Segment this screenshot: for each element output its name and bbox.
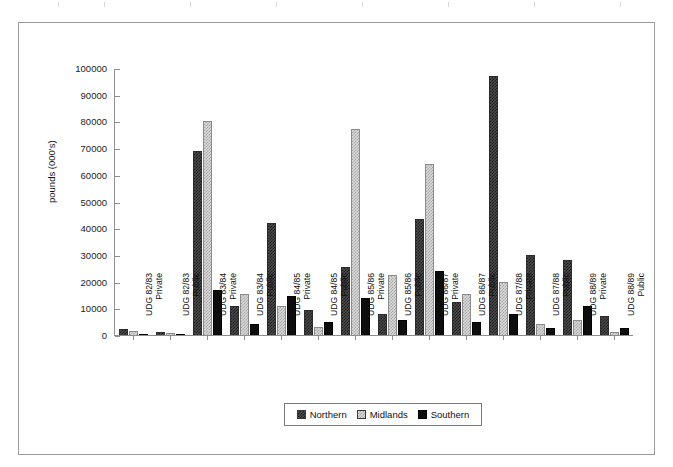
x-axis-label-cell: UDG 88/89Private xyxy=(559,343,596,415)
x-axis-tick xyxy=(207,335,208,340)
legend-swatch-icon xyxy=(357,410,366,419)
x-axis-tick xyxy=(281,335,282,340)
legend-item-southern[interactable]: Southern xyxy=(418,409,470,420)
x-axis-tick-label: UDG 88/89Private xyxy=(588,273,608,343)
x-axis-label-line2: Public xyxy=(191,273,201,343)
x-axis-label-line1: UDG 88/89 xyxy=(588,273,598,343)
x-axis-tick-label: UDG 85/86Public xyxy=(403,273,423,343)
bar-midlands xyxy=(388,275,397,335)
y-axis-tick-label: 70000 xyxy=(81,144,107,154)
x-axis-tick-label: UDG 82/83Public xyxy=(181,273,201,343)
x-axis-tick-label: UDG 84/85Private xyxy=(292,273,312,343)
x-axis-label-cell: UDG 87/88Private xyxy=(485,343,522,415)
x-axis-label-line1: UDG 83/84 xyxy=(255,273,265,343)
x-axis-label-line2: Public xyxy=(636,273,646,343)
x-axis-label-line2: Private xyxy=(450,273,460,343)
y-axis-tick xyxy=(115,336,120,337)
legend-swatch-icon xyxy=(297,410,306,419)
y-axis-tick-label: 80000 xyxy=(81,118,107,128)
x-axis-tick xyxy=(429,335,430,340)
legend-label: Midlands xyxy=(370,409,408,420)
x-axis-tick-label: UDG 84/85Public xyxy=(329,273,349,343)
x-axis-tick-label: UDG 88/89Public xyxy=(626,273,646,343)
bar-midlands xyxy=(425,164,434,335)
y-axis-tick-label: 30000 xyxy=(81,251,107,261)
x-axis-label-line2: Private xyxy=(154,273,164,343)
y-axis-tick-label: 90000 xyxy=(81,91,107,101)
x-axis-label-line1: UDG 84/85 xyxy=(329,273,339,343)
x-axis-label-line1: UDG 82/83 xyxy=(144,273,154,343)
x-axis-label-cell: UDG 82/83Private xyxy=(114,343,151,415)
x-axis-tick xyxy=(133,335,134,340)
x-axis-label-line2: Private xyxy=(598,273,608,343)
legend-label: Northern xyxy=(310,409,347,420)
y-axis-tick-label: 100000 xyxy=(75,64,107,74)
x-axis-label-line1: UDG 87/88 xyxy=(551,273,561,343)
y-axis-tick-label: 40000 xyxy=(81,224,107,234)
bar-midlands xyxy=(462,294,471,335)
x-axis-label-cell: UDG 87/88Public xyxy=(522,343,559,415)
x-axis-tick-label: UDG 82/83Private xyxy=(144,273,164,343)
legend-item-northern[interactable]: Northern xyxy=(297,409,347,420)
x-axis-tick xyxy=(503,335,504,340)
x-axis-tick-label: UDG 86/87Private xyxy=(440,273,460,343)
bar-northern xyxy=(119,329,128,335)
x-axis-tick xyxy=(318,335,319,340)
bar-midlands xyxy=(240,294,249,335)
x-axis-label-line1: UDG 88/89 xyxy=(626,273,636,343)
legend-swatch-icon xyxy=(418,410,427,419)
y-axis-tick-label: 60000 xyxy=(81,171,107,181)
y-axis-tick-label: 50000 xyxy=(81,198,107,208)
y-axis-tick-label: 10000 xyxy=(81,305,107,315)
x-axis-label-line2: Public xyxy=(265,273,275,343)
x-axis-tick xyxy=(170,335,171,340)
figure-frame: pounds (000's) 0100002000030000400005000… xyxy=(18,22,655,455)
chart-legend: NorthernMidlandsSouthern xyxy=(284,403,482,426)
x-axis-tick-label: UDG 86/87Public xyxy=(477,273,497,343)
bar-midlands xyxy=(203,121,212,335)
x-axis-label-cell: UDG 83/84Public xyxy=(225,343,262,415)
x-axis-tick xyxy=(577,335,578,340)
legend-item-midlands[interactable]: Midlands xyxy=(357,409,408,420)
x-axis-label-line2: Public xyxy=(413,273,423,343)
x-axis-label-line2: Public xyxy=(561,273,571,343)
x-axis-label-line1: UDG 82/83 xyxy=(181,273,191,343)
x-axis-label-line1: UDG 85/86 xyxy=(403,273,413,343)
chart-page: pounds (000's) 0100002000030000400005000… xyxy=(0,0,673,467)
y-axis-title: pounds (000's) xyxy=(46,140,57,203)
x-axis-tick-label: UDG 87/88Public xyxy=(551,273,571,343)
x-axis-tick-label: UDG 83/84Public xyxy=(255,273,275,343)
x-axis-label-line2: Private xyxy=(376,273,386,343)
bar-midlands xyxy=(573,320,582,335)
x-axis-tick xyxy=(392,335,393,340)
y-axis-tick-label: 0 xyxy=(102,331,107,341)
x-axis-label-cell: UDG 83/84Private xyxy=(188,343,225,415)
bar-midlands xyxy=(499,282,508,335)
x-axis-label-line1: UDG 85/86 xyxy=(366,273,376,343)
scan-artifact-row xyxy=(0,0,673,8)
legend-label: Southern xyxy=(431,409,470,420)
x-axis-label-line1: UDG 86/87 xyxy=(477,273,487,343)
x-axis-tick-label: UDG 83/84Private xyxy=(218,273,238,343)
y-axis-tick-label: 20000 xyxy=(81,278,107,288)
x-axis-label-line1: UDG 83/84 xyxy=(218,273,228,343)
x-axis-label-line1: UDG 87/88 xyxy=(514,273,524,343)
x-axis-tick-label: UDG 85/86Private xyxy=(366,273,386,343)
x-axis-label-cell: UDG 88/89Public xyxy=(596,343,633,415)
x-axis-label-line2: Private xyxy=(302,273,312,343)
x-axis-label-line1: UDG 86/87 xyxy=(440,273,450,343)
bar-midlands xyxy=(314,327,323,335)
x-axis-label-line1: UDG 84/85 xyxy=(292,273,302,343)
x-axis-label-line2: Public xyxy=(487,273,497,343)
x-axis-tick xyxy=(540,335,541,340)
x-axis-label-line2: Private xyxy=(228,273,238,343)
bar-midlands xyxy=(351,129,360,335)
x-axis-tick xyxy=(466,335,467,340)
x-axis-label-line2: Private xyxy=(524,273,534,343)
x-axis-tick xyxy=(244,335,245,340)
x-axis-label-line2: Public xyxy=(339,273,349,343)
x-axis-tick xyxy=(355,335,356,340)
bar-midlands xyxy=(277,306,286,335)
x-axis-label-cell: UDG 82/83Public xyxy=(151,343,188,415)
bar-midlands xyxy=(536,324,545,335)
